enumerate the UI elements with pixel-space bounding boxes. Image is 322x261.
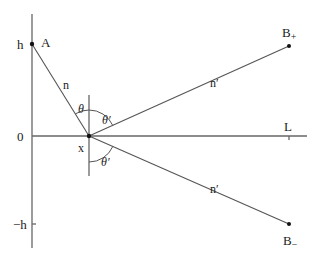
label-theta: θ bbox=[78, 102, 84, 116]
label-theta-prime-lower: θ′ bbox=[101, 155, 110, 169]
point-A bbox=[30, 42, 34, 46]
label-L: L bbox=[284, 119, 292, 134]
point-B-minus bbox=[287, 222, 291, 226]
point-x bbox=[87, 134, 91, 138]
label-n: n bbox=[63, 78, 69, 92]
label-h: h bbox=[17, 37, 24, 52]
label-B-minus: B− bbox=[283, 233, 298, 250]
label-x: x bbox=[78, 141, 84, 155]
point-B-plus bbox=[287, 44, 291, 48]
label-n-prime-lower: n′ bbox=[210, 182, 219, 196]
label-B-plus: B+ bbox=[282, 25, 297, 42]
ray-x-to-B-plus bbox=[89, 46, 289, 136]
label-minus-h: −h bbox=[13, 217, 27, 232]
label-A: A bbox=[41, 35, 51, 50]
ray-x-to-B-minus bbox=[89, 136, 289, 224]
ray-A-to-x bbox=[32, 44, 89, 136]
label-n-prime-upper: n′ bbox=[210, 76, 219, 90]
reflection-diagram: h 0 −h L A x B+ B− n n′ n′ θ θ′ θ′ bbox=[0, 0, 322, 261]
label-theta-prime-upper: θ′ bbox=[102, 113, 111, 127]
label-zero: 0 bbox=[17, 129, 24, 144]
